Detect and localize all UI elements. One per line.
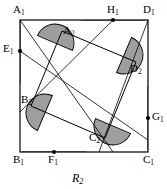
point-subscript-h1: 1 (115, 8, 119, 17)
point-subscript-c1: 1 (150, 158, 154, 167)
point-label-d2: D2 (130, 63, 142, 74)
point-subscript-e1: 1 (10, 47, 14, 56)
point-label-c1: C1 (143, 154, 154, 165)
point-subscript-a2: 2 (71, 29, 75, 38)
point-letter-a2: A (63, 24, 71, 36)
point-subscript-d2: 2 (138, 67, 142, 76)
caption-subscript: 2 (79, 177, 83, 186)
point-subscript-g1: 1 (160, 115, 164, 124)
geometry-figure: A1D1C1B1E1F1G1H1A2D2C2B2 R2 (0, 0, 167, 189)
figure-caption: R2 (72, 172, 83, 186)
point-letter-d1: D (143, 3, 151, 15)
point-label-a2: A2 (63, 25, 75, 36)
point-subscript-b1: 1 (20, 158, 24, 167)
point-letter-e1: E (3, 42, 10, 54)
point-subscript-f1: 1 (54, 158, 58, 167)
point-label-b2: B2 (21, 94, 32, 105)
point-dot-h1 (111, 18, 115, 22)
point-label-e1: E1 (3, 43, 13, 54)
point-letter-h1: H (107, 3, 115, 15)
point-letter-a1: A (13, 3, 21, 15)
point-label-c2: C2 (89, 132, 100, 143)
point-label-b1: B1 (13, 154, 24, 165)
point-label-a1: A1 (13, 4, 25, 15)
point-dot-g1 (146, 116, 150, 120)
point-letter-g1: G (152, 110, 160, 122)
inner-square-outline (31, 31, 136, 138)
point-label-f1: F1 (48, 154, 58, 165)
point-subscript-b2: 2 (28, 98, 32, 107)
point-label-h1: H1 (107, 4, 119, 15)
point-dot-e1 (18, 49, 22, 53)
point-subscript-c2: 2 (96, 136, 100, 145)
point-label-d1: D1 (143, 4, 155, 15)
point-subscript-d1: 1 (151, 8, 155, 17)
point-letter-d2: D (130, 62, 138, 74)
point-label-g1: G1 (152, 111, 164, 122)
point-subscript-a1: 1 (21, 8, 25, 17)
